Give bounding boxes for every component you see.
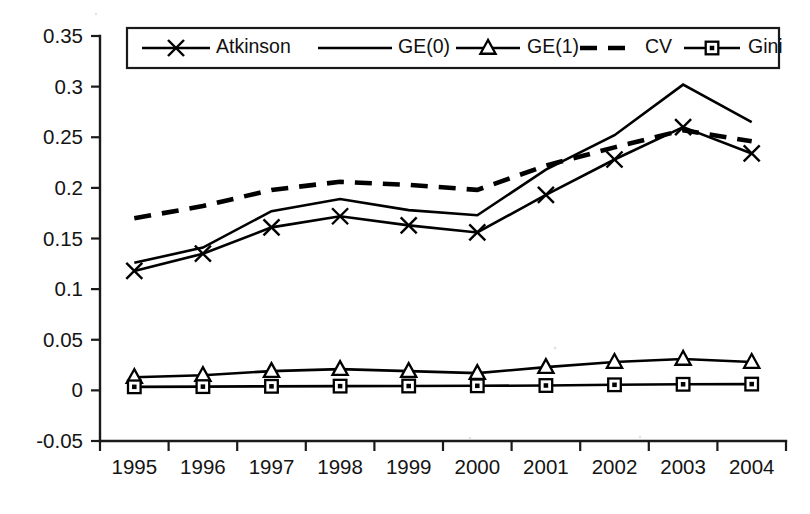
y-tick-label: 0.05 [43, 328, 83, 351]
legend-label: GE(1) [527, 35, 579, 57]
y-tick-label: -0.05 [36, 429, 83, 452]
x-tick-label: 2000 [454, 455, 500, 478]
marker-square-center [132, 385, 137, 390]
y-tick-label: 0.1 [55, 277, 84, 300]
marker-square-center [612, 383, 617, 388]
legend-label: CV [645, 35, 672, 57]
y-tick-label: 0.3 [55, 75, 84, 98]
x-tick-label: 1997 [249, 455, 295, 478]
x-tick-label: 2003 [660, 455, 706, 478]
x-tick-label: 2001 [523, 455, 569, 478]
y-tick-label: 0.15 [43, 227, 83, 250]
marker-square-center [681, 382, 686, 387]
inequality-indices-line-chart: -0.0500.050.10.150.20.250.30.35 19951996… [0, 0, 810, 514]
marker-square-center [269, 384, 274, 389]
x-tick-label: 1998 [317, 455, 363, 478]
x-tick-label: 1996 [180, 455, 226, 478]
marker-square-center [475, 384, 480, 389]
marker-square-center [749, 382, 754, 387]
marker-square-center [710, 46, 715, 51]
y-tick-label: 0.25 [43, 125, 83, 148]
y-tick-label: 0 [72, 378, 83, 401]
x-tick-label: 1999 [386, 455, 432, 478]
marker-square-center [201, 384, 206, 389]
chart-background [0, 0, 810, 514]
chart-legend: AtkinsonGE(0)GE(1)CVGini [127, 28, 783, 68]
legend-label: GE(0) [398, 35, 450, 57]
x-tick-label: 1995 [111, 455, 157, 478]
legend-label: Atkinson [216, 35, 291, 57]
chart-canvas: -0.0500.050.10.150.20.250.30.35 19951996… [0, 0, 810, 514]
marker-square-center [544, 383, 549, 388]
marker-square-center [338, 384, 343, 389]
y-tick-label: 0.2 [55, 176, 84, 199]
legend-label: Gini [748, 35, 783, 57]
x-tick-label: 2002 [592, 455, 638, 478]
marker-square-center [406, 384, 411, 389]
y-tick-label: 0.35 [43, 24, 83, 47]
x-tick-label: 2004 [729, 455, 775, 478]
